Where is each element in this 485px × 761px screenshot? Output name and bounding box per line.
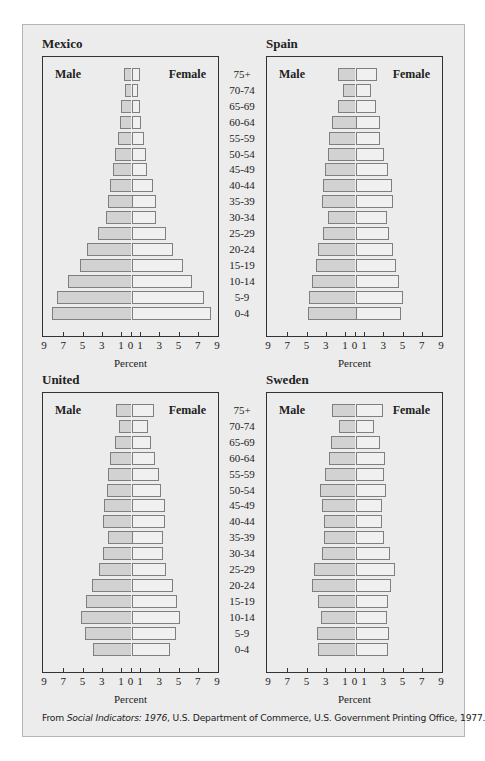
age-group-label: 55-59 bbox=[219, 131, 265, 146]
age-group-label: 20-24 bbox=[219, 242, 265, 257]
bar-row-40-44 bbox=[267, 515, 442, 530]
female-bar bbox=[132, 595, 177, 608]
female-bar bbox=[132, 627, 176, 640]
tick-label: 7 bbox=[61, 339, 67, 351]
tick-label: 1 bbox=[137, 675, 143, 687]
female-bar bbox=[356, 515, 383, 528]
age-group-label: 75+ bbox=[219, 67, 265, 82]
male-bar bbox=[320, 484, 356, 497]
bar-row-75+ bbox=[43, 68, 218, 83]
male-bar bbox=[318, 243, 355, 256]
axis-tick bbox=[83, 332, 84, 337]
male-bar bbox=[314, 563, 355, 576]
axis-tick bbox=[355, 668, 356, 673]
age-group-label: 45-49 bbox=[219, 498, 265, 513]
age-group-label: 15-19 bbox=[219, 594, 265, 609]
axis-tick bbox=[383, 332, 384, 337]
bar-row-50-54 bbox=[43, 148, 218, 163]
male-bar bbox=[108, 531, 132, 544]
axis-tick bbox=[102, 332, 103, 337]
bar-row-15-19 bbox=[43, 259, 218, 274]
tick-label: 5 bbox=[304, 339, 310, 351]
age-group-label: 15-19 bbox=[219, 258, 265, 273]
age-group-label: 30-34 bbox=[219, 210, 265, 225]
age-group-label: 30-34 bbox=[219, 546, 265, 561]
tick-label: 7 bbox=[195, 339, 201, 351]
axis-tick bbox=[131, 668, 132, 673]
bar-row-55-59 bbox=[43, 132, 218, 147]
x-axis-label: Percent bbox=[42, 357, 219, 369]
female-bar bbox=[132, 436, 151, 449]
female-bar bbox=[356, 195, 393, 208]
male-bar bbox=[312, 579, 355, 592]
male-bar bbox=[331, 436, 356, 449]
tick-label: 5 bbox=[80, 339, 86, 351]
female-bar bbox=[132, 195, 156, 208]
bar-row-10-14 bbox=[43, 275, 218, 290]
bar-row-0-4 bbox=[43, 307, 218, 322]
male-bar bbox=[338, 68, 355, 81]
tick-label: 1 bbox=[342, 675, 348, 687]
tick-label: 3 bbox=[99, 339, 105, 351]
female-bar bbox=[356, 499, 383, 512]
tick-label: 7 bbox=[61, 675, 67, 687]
male-bar bbox=[332, 116, 356, 129]
female-bar bbox=[132, 611, 180, 624]
bar-row-35-39 bbox=[267, 195, 442, 210]
age-group-label: 50-54 bbox=[219, 147, 265, 162]
bar-row-25-29 bbox=[43, 563, 218, 578]
age-group-label: 5-9 bbox=[219, 626, 265, 641]
axis-tick bbox=[326, 332, 327, 337]
tick-label: 7 bbox=[419, 675, 425, 687]
female-bar bbox=[132, 563, 167, 576]
age-group-label: 0-4 bbox=[219, 642, 265, 657]
male-bar bbox=[316, 259, 355, 272]
axis-tick bbox=[63, 332, 64, 337]
bar-row-20-24 bbox=[267, 243, 442, 258]
male-bar bbox=[318, 643, 355, 656]
female-bar bbox=[356, 179, 392, 192]
male-bar bbox=[99, 563, 132, 576]
bar-row-50-54 bbox=[267, 484, 442, 499]
male-bar bbox=[324, 515, 356, 528]
plot-area: Male Female bbox=[42, 56, 219, 337]
axis-tick bbox=[102, 668, 103, 673]
female-bar bbox=[132, 499, 166, 512]
axis-tick bbox=[383, 668, 384, 673]
female-bar bbox=[356, 291, 403, 304]
bar-row-45-49 bbox=[43, 163, 218, 178]
male-bar bbox=[323, 227, 356, 240]
female-bar bbox=[356, 227, 390, 240]
bar-row-30-34 bbox=[43, 211, 218, 226]
male-bar bbox=[322, 195, 356, 208]
bar-row-20-24 bbox=[43, 243, 218, 258]
bar-row-75+ bbox=[43, 404, 218, 419]
bar-row-0-4 bbox=[43, 643, 218, 658]
x-axis-label: Percent bbox=[266, 693, 443, 705]
axis-tick bbox=[140, 668, 141, 673]
female-bar bbox=[356, 275, 399, 288]
male-bar bbox=[68, 275, 131, 288]
tick-label: 5 bbox=[176, 339, 182, 351]
male-bar bbox=[119, 420, 131, 433]
bar-row-40-44 bbox=[43, 515, 218, 530]
axis-tick bbox=[326, 668, 327, 673]
tick-label: 1 bbox=[342, 339, 348, 351]
axis-tick bbox=[287, 668, 288, 673]
age-group-label: 70-74 bbox=[219, 83, 265, 98]
tick-label: 9 bbox=[214, 339, 220, 351]
bar-row-5-9 bbox=[267, 291, 442, 306]
male-bar bbox=[87, 243, 131, 256]
axis-tick bbox=[198, 332, 199, 337]
bar-row-55-59 bbox=[43, 468, 218, 483]
male-bar bbox=[118, 132, 131, 145]
tick-label: 1 bbox=[137, 339, 143, 351]
bar-row-65-69 bbox=[43, 100, 218, 115]
age-group-label: 55-59 bbox=[219, 467, 265, 482]
male-bar bbox=[52, 307, 132, 320]
female-bar bbox=[132, 116, 142, 129]
age-group-label: 70-74 bbox=[219, 419, 265, 434]
male-bar bbox=[309, 291, 355, 304]
tick-label: 1 bbox=[118, 675, 124, 687]
male-bar bbox=[108, 468, 131, 481]
